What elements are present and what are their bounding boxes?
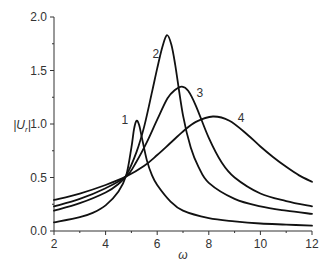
y-axis-label: |Ur|	[13, 118, 31, 134]
y-tick-label: 1.0	[30, 117, 47, 131]
y-tick-label: 0.0	[30, 224, 47, 238]
curves	[54, 35, 312, 225]
resonance-chart: 0.00.51.01.52.0 24681012 1234 ω |Ur|	[0, 0, 329, 271]
curve-1	[54, 121, 312, 226]
chart-svg: 0.00.51.01.52.0 24681012 1234 ω |Ur|	[0, 0, 329, 271]
y-tick-label: 2.0	[30, 10, 47, 24]
curve-label-2: 2	[153, 47, 160, 61]
curve-label-1: 1	[122, 113, 129, 127]
x-axis-label: ω	[178, 248, 187, 262]
x-tick-label: 2	[51, 237, 58, 251]
x-tick-label: 10	[254, 237, 268, 251]
x-tick-label: 4	[102, 237, 109, 251]
curve-2	[54, 35, 312, 214]
curve-label-3: 3	[196, 86, 203, 100]
x-tick-label: 6	[154, 237, 161, 251]
y-tick-label: 1.5	[30, 64, 47, 78]
y-axis: 0.00.51.01.52.0	[30, 10, 54, 238]
curve-4	[54, 116, 312, 199]
curve-label-4: 4	[238, 111, 245, 125]
x-tick-label: 12	[305, 237, 319, 251]
x-tick-label: 8	[205, 237, 212, 251]
curve-3	[54, 87, 312, 207]
y-tick-label: 0.5	[30, 171, 47, 185]
